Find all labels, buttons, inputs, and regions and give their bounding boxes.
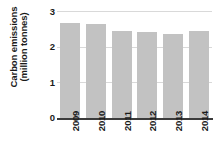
bar-slot-2010 bbox=[83, 11, 109, 118]
y-axis-title-line-2: (million tonnes) bbox=[19, 12, 29, 81]
bar-2012 bbox=[137, 32, 157, 118]
y-tick-label-3: 3 bbox=[40, 6, 55, 17]
x-tick-label-2011: 2011 bbox=[122, 111, 133, 131]
bar-slot-2009 bbox=[57, 11, 83, 118]
bar-2010 bbox=[86, 24, 106, 118]
plot-area bbox=[57, 11, 212, 118]
x-slot-3: 2012 bbox=[134, 120, 160, 162]
x-slot-0: 2009 bbox=[57, 120, 83, 162]
bar-2011 bbox=[112, 31, 132, 118]
bar-slot-2013 bbox=[160, 11, 186, 118]
x-slot-4: 2013 bbox=[160, 120, 186, 162]
bars-layer bbox=[57, 11, 212, 118]
bar-slot-2011 bbox=[109, 11, 135, 118]
y-tick-label-2: 2 bbox=[40, 41, 55, 52]
x-tick-label-2009: 2009 bbox=[70, 111, 81, 131]
bar-chart: Carbon emissions (million tonnes) 3 2 1 … bbox=[0, 0, 216, 162]
x-tick-label-2013: 2013 bbox=[173, 111, 184, 131]
bar-2009 bbox=[60, 23, 80, 118]
y-axis-tick-labels: 3 2 1 0 bbox=[40, 0, 55, 162]
x-tick-label-2014: 2014 bbox=[199, 111, 210, 131]
x-tick-label-2010: 2010 bbox=[96, 111, 107, 131]
x-slot-1: 2010 bbox=[83, 120, 109, 162]
bar-slot-2014 bbox=[186, 11, 212, 118]
bar-slot-2012 bbox=[134, 11, 160, 118]
x-tick-label-2012: 2012 bbox=[147, 111, 158, 131]
x-axis-tick-labels: 2009 2010 2011 2012 2013 2014 bbox=[57, 120, 212, 162]
x-slot-5: 2014 bbox=[186, 120, 212, 162]
y-axis-title: Carbon emissions (million tonnes) bbox=[3, 0, 35, 99]
y-tick-label-1: 1 bbox=[40, 77, 55, 88]
x-slot-2: 2011 bbox=[109, 120, 135, 162]
bar-2013 bbox=[163, 34, 183, 118]
bar-2014 bbox=[189, 31, 209, 118]
y-tick-label-0: 0 bbox=[40, 112, 55, 123]
